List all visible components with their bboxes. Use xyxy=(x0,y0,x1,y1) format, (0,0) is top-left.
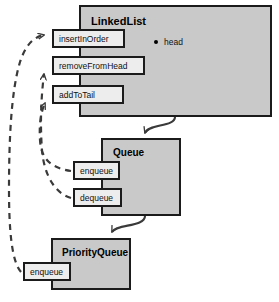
field-label-head: head xyxy=(164,37,183,47)
field-bullet-icon xyxy=(154,40,158,44)
field-linkedlist-head: head xyxy=(154,37,183,47)
class-title-priorityqueue: PriorityQueue xyxy=(62,247,128,258)
method-box-queue-enqueue[interactable]: enqueue xyxy=(73,161,120,180)
method-box-priorityqueue-enqueue[interactable]: enqueue xyxy=(23,262,71,281)
method-box-removefromhead[interactable]: removeFromHead xyxy=(52,56,145,75)
method-box-addtotail[interactable]: addToTail xyxy=(52,85,124,104)
class-title-linkedlist: LinkedList xyxy=(91,15,146,27)
method-label-removefromhead: removeFromHead xyxy=(54,61,128,71)
method-label-priorityqueue-enqueue: enqueue xyxy=(25,267,63,277)
inheritance-linkedlist-to-queue xyxy=(145,117,175,133)
method-label-insertinorder: insertInOrder xyxy=(54,34,109,44)
method-box-queue-dequeue[interactable]: dequeue xyxy=(73,188,122,207)
override-priorityqueue-enqueue-to-insertinorder xyxy=(9,35,44,272)
method-label-queue-enqueue: enqueue xyxy=(75,166,113,176)
method-label-addtotail: addToTail xyxy=(54,90,95,100)
inheritance-queue-to-priorityqueue xyxy=(112,216,145,232)
class-diagram-canvas: LinkedList head insertInOrder removeFrom… xyxy=(0,0,279,302)
method-label-queue-dequeue: dequeue xyxy=(75,193,113,203)
method-box-insertinorder[interactable]: insertInOrder xyxy=(52,29,125,48)
class-title-queue: Queue xyxy=(113,147,144,158)
